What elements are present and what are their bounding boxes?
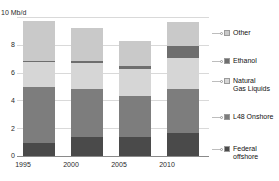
- bar-2000: [71, 28, 103, 156]
- segment-l48-2005: [119, 96, 151, 138]
- legend-leader-dot-federal: [220, 148, 223, 151]
- legend-leader-dot-other: [220, 32, 223, 35]
- ytick-8: 8: [11, 41, 15, 48]
- xlabel-2000: 2000: [51, 161, 91, 169]
- legend-item-natural-gas-liquids[interactable]: Natural Gas Liquids: [224, 77, 270, 93]
- segment-ethanol-2010: [167, 46, 199, 58]
- segment-l48-2010: [167, 89, 199, 133]
- ytick-4: 4: [11, 97, 15, 104]
- legend-swatch-natural-gas-liquids: [224, 78, 230, 84]
- legend-item-l48-onshore[interactable]: L48 Onshore: [224, 113, 273, 121]
- legend-label-federal-offshore: Federal offshore: [233, 145, 258, 161]
- ytick-0: 0: [11, 152, 15, 159]
- legend-swatch-ethanol: [224, 58, 230, 64]
- segment-other-2010: [167, 22, 199, 46]
- legend-item-other[interactable]: Other: [224, 29, 251, 37]
- legend-leader-dot-ngl: [220, 80, 223, 83]
- segment-ngl-2010: [167, 58, 199, 89]
- segment-federal-2000: [71, 137, 103, 156]
- segment-federal-1995: [23, 143, 55, 156]
- legend-swatch-other: [224, 30, 230, 36]
- segment-federal-2005: [119, 137, 151, 156]
- segment-ngl-2000: [71, 63, 103, 89]
- xlabel-1995: 1995: [3, 161, 43, 169]
- xlabel-2010: 2010: [147, 161, 187, 169]
- legend-swatch-l48-onshore: [224, 114, 230, 120]
- xlabel-2005: 2005: [99, 161, 139, 169]
- legend-leader-dot-ethanol: [220, 60, 223, 63]
- segment-other-1995: [23, 21, 55, 60]
- segment-federal-2010: [167, 133, 199, 156]
- legend-label-natural-gas-liquids: Natural Gas Liquids: [233, 77, 270, 93]
- bar-2010: [167, 22, 199, 156]
- legend-leader-dot-l48: [220, 116, 223, 119]
- legend-swatch-federal-offshore: [224, 146, 230, 152]
- segment-ngl-1995: [23, 62, 55, 86]
- chart-legend: Other Ethanol Natural Gas Liquids L48 On…: [212, 0, 279, 181]
- legend-label-other: Other: [233, 29, 251, 37]
- segment-ngl-2005: [119, 69, 151, 95]
- legend-label-l48-onshore: L48 Onshore: [233, 113, 273, 121]
- ytick-2: 2: [11, 125, 15, 132]
- legend-label-ethanol: Ethanol: [233, 57, 257, 65]
- legend-item-ethanol[interactable]: Ethanol: [224, 57, 257, 65]
- gridline-10: [17, 17, 209, 18]
- segment-other-2005: [119, 41, 151, 67]
- ytick-6: 6: [11, 69, 15, 76]
- segment-other-2000: [71, 28, 103, 61]
- segment-l48-2000: [71, 89, 103, 136]
- stacked-bar-chart: 10 Mb/d: [0, 0, 279, 181]
- y-axis-ticks: 8 6 4 2 0: [0, 0, 15, 181]
- bar-2005: [119, 41, 151, 156]
- bar-1995: [23, 21, 55, 156]
- plot-area: [17, 17, 209, 156]
- legend-item-federal-offshore[interactable]: Federal offshore: [224, 145, 258, 161]
- segment-l48-1995: [23, 87, 55, 143]
- x-axis-line: [17, 156, 209, 157]
